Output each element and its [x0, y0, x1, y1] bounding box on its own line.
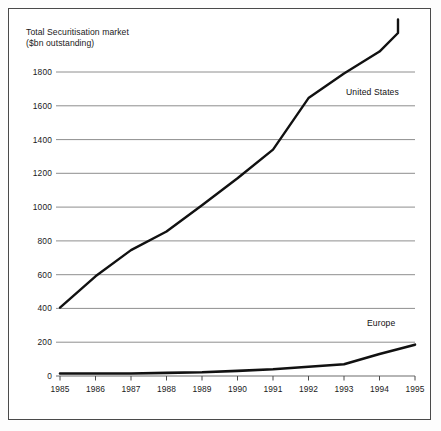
xtick-label-1992: 1992 — [299, 384, 318, 394]
ytick-label-600: 600 — [38, 270, 52, 280]
ytick-label-1600: 1600 — [33, 101, 52, 111]
series-line-united-states — [60, 20, 398, 308]
ytick-label-1000: 1000 — [33, 202, 52, 212]
ytick-label-400: 400 — [38, 303, 52, 313]
xtick-label-1986: 1986 — [86, 384, 105, 394]
xtick-label-1993: 1993 — [334, 384, 353, 394]
xtick-label-1995: 1995 — [405, 384, 424, 394]
xtick-label-1987: 1987 — [121, 384, 140, 394]
series-label-united-states: United States — [346, 87, 399, 97]
series-label-europe: Europe — [367, 318, 395, 328]
chart-figure: Total Securitisation market($bn outstand… — [0, 0, 441, 431]
gridlines — [56, 72, 415, 342]
x-axis — [56, 376, 415, 381]
ytick-label-1200: 1200 — [33, 168, 52, 178]
ytick-label-200: 200 — [38, 337, 52, 347]
series-line-europe — [60, 345, 415, 374]
ytick-label-1800: 1800 — [33, 67, 52, 77]
xtick-label-1991: 1991 — [263, 384, 282, 394]
xtick-label-1988: 1988 — [157, 384, 176, 394]
xtick-label-1994: 1994 — [370, 384, 389, 394]
ytick-label-0: 0 — [47, 371, 52, 381]
xtick-label-1985: 1985 — [50, 384, 69, 394]
xtick-label-1990: 1990 — [228, 384, 247, 394]
ytick-label-800: 800 — [38, 236, 52, 246]
ytick-label-1400: 1400 — [33, 135, 52, 145]
plot-area — [0, 0, 441, 431]
xtick-label-1989: 1989 — [192, 384, 211, 394]
